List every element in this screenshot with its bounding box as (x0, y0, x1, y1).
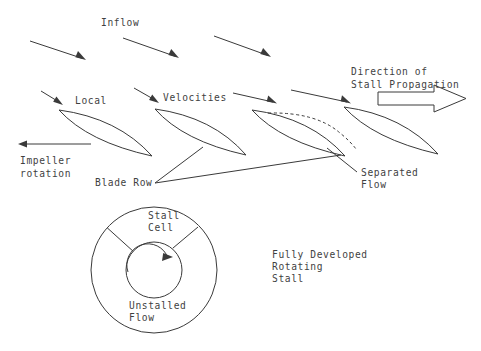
label-separated: Separated (361, 167, 418, 178)
diagram-canvas: Inflow Local Velocities Direction of Sta… (0, 0, 481, 351)
label-rotation: rotation (20, 168, 71, 179)
inflow-arrow-1 (30, 41, 86, 60)
label-local: Local (75, 95, 107, 106)
label-rotating: Rotating (272, 261, 323, 272)
leader-line-group (155, 147, 357, 183)
velocity-arrow-3 (233, 93, 277, 104)
inner-circle (126, 242, 182, 298)
impeller-rotation-arrow (18, 141, 91, 148)
stall-cell-radial-line-left (107, 228, 133, 252)
blade-row-group (59, 107, 438, 156)
velocity-arrow-2 (134, 88, 159, 103)
rotation-arc-arrow (127, 244, 173, 272)
separated-flow-leader (327, 148, 357, 172)
label-impeller: Impeller (20, 155, 71, 166)
rotating-stall-diagram: Inflow Local Velocities Direction of Sta… (0, 0, 481, 351)
label-unstalled-flow: Flow (129, 312, 155, 323)
blade-row-leader-upper (155, 147, 203, 183)
velocity-arrow-1 (41, 91, 63, 105)
velocity-arrow-4 (291, 90, 351, 104)
blade-4 (344, 107, 438, 154)
stall-cell-radial-line-right (173, 227, 198, 248)
inflow-arrow-2 (123, 38, 179, 58)
label-blade-row: Blade Row (95, 177, 152, 188)
label-cell: Cell (148, 222, 174, 233)
label-inflow: Inflow (101, 17, 139, 28)
label-separated-flow: Flow (361, 179, 387, 190)
label-unstalled: Unstalled (129, 300, 186, 311)
label-velocities: Velocities (163, 92, 227, 103)
blade-1 (59, 110, 152, 156)
blade-row-leader-right (155, 155, 341, 183)
blade-3 (252, 110, 345, 156)
inflow-arrow-group (30, 36, 271, 60)
label-direction-of: Direction of (351, 66, 428, 77)
separated-flow-dashed-line (268, 113, 356, 149)
inflow-arrow-3 (214, 36, 271, 57)
blade-2 (155, 109, 246, 155)
label-stall-propagation: Stall Propagation (351, 79, 459, 90)
label-stall: Stall (148, 210, 180, 221)
label-stall-2: Stall (272, 273, 304, 284)
label-fully-developed: Fully Developed (272, 249, 368, 260)
